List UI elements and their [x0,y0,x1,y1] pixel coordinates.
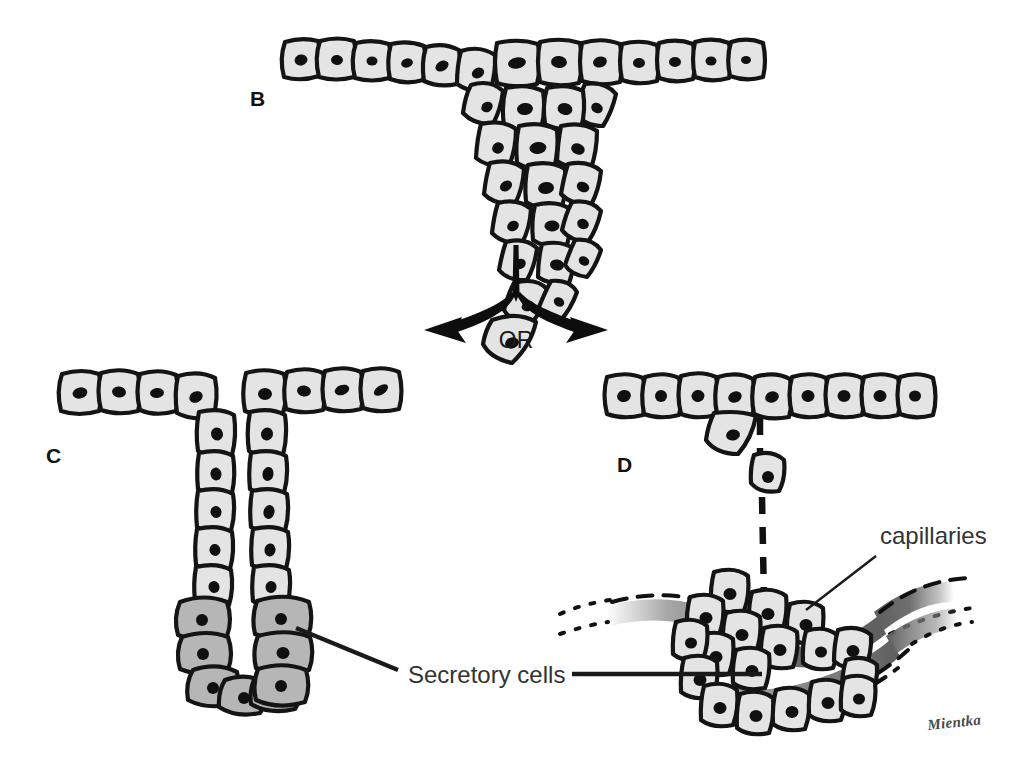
panel-c-duct-wall-left [194,410,235,606]
epithelial-cell [353,41,392,80]
cluster-cell [737,692,774,734]
bud-cell [476,122,516,166]
epithelial-cell [99,370,141,413]
or-label: OR [499,327,534,353]
secretory-cell [254,665,308,705]
cluster-cell [841,676,876,716]
cluster-cell [803,629,838,669]
epithelial-cell [728,40,765,80]
epithelial-cell [423,45,460,85]
epithelial-cell [580,40,622,84]
migrating-cell [751,453,785,492]
bud-cell [492,201,531,243]
panel-label-d: D [617,453,632,476]
gland-development-figure: B [0,0,1022,776]
arrow-stem [513,245,520,302]
cluster-cell [733,648,770,689]
epithelial-cell [317,39,357,80]
epithelial-cell [898,374,936,417]
panel-c-duct-wall-right [248,410,290,606]
panel-label-c: C [46,444,61,467]
epithelial-cell [862,374,901,417]
epithelial-cell [323,368,364,411]
epithelial-cell [361,368,402,411]
epithelial-cell [59,371,102,414]
epithelial-cell [657,41,695,82]
cluster-cell [773,688,810,730]
epithelial-cell [790,374,829,417]
epithelial-cell [620,42,659,84]
epithelial-cell [693,40,731,81]
epithelial-cell [642,374,681,417]
bud-cell [463,83,503,124]
panel-label-b: B [250,87,265,110]
epithelial-cell [605,374,646,417]
epithelial-cell [284,369,325,412]
panel-c-surface-left [59,370,217,418]
bud-cell [561,163,601,205]
epithelial-cell [538,40,582,86]
capillaries-label: capillaries [880,522,987,549]
epithelial-cell [495,41,540,87]
epithelial-cell [679,373,719,417]
bud-cell [484,161,524,204]
epithelial-cell [138,371,179,414]
epithelial-cell [826,374,865,417]
epithelial-cell [388,42,426,82]
epithelial-cell [752,374,792,418]
figure-root: B [0,0,1022,776]
cluster-cell [701,684,738,726]
secretory-cells-label: Secretory cells [408,661,565,688]
